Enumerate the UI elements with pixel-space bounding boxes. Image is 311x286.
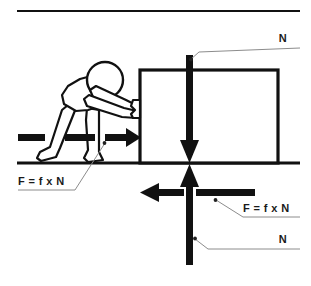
block [140, 70, 278, 163]
leader-normal-bottom-dot [193, 237, 197, 241]
friction-tail-segment [196, 189, 255, 196]
label-normal-top: N [279, 32, 287, 44]
label-normal-bottom: N [279, 233, 287, 245]
applied-force-tail-segment-2 [65, 134, 95, 141]
leader-friction-left-dot [103, 141, 107, 145]
leader-normal-top-dot [189, 58, 193, 62]
label-friction-left: F = f x N [18, 175, 65, 187]
label-friction-right: F = f x N [243, 202, 290, 214]
normal-up-shaft [186, 180, 193, 265]
applied-force-tail-segment-1 [18, 134, 45, 141]
friction-force-diagram: Friction force diagram: person pushing a… [0, 0, 311, 286]
friction-shaft [155, 189, 184, 196]
leader-friction-right-dot [214, 198, 218, 202]
figure-root: Friction force diagram: person pushing a… [0, 0, 311, 286]
